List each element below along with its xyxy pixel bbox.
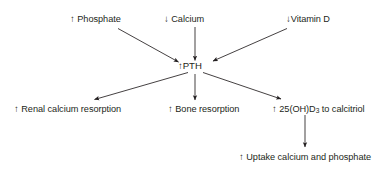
node-bone-resorption-label: Bone resorption [175, 104, 239, 114]
node-uptake-label: Uptake calcium and phosphate [246, 152, 371, 162]
node-phosphate: ↑ Phosphate [70, 14, 121, 24]
node-renal-calcium-resorption-label: Renal calcium resorption [21, 104, 121, 114]
node-uptake-calcium-phosphate: ↑ Uptake calcium and phosphate [239, 152, 371, 162]
node-pth-label: PTH [183, 60, 202, 71]
node-vitamin-d-label: Vitamin D [291, 14, 330, 24]
node-calcitriol-label-post: to calcitriol [319, 104, 364, 114]
node-vitamin-d: ↓Vitamin D [286, 14, 330, 24]
flow-arrows-svg [0, 0, 392, 171]
arrow-pth-to-calcitriol [203, 73, 281, 100]
pth-regulation-diagram: ↑ Phosphate ↓ Calcium ↓Vitamin D ↑PTH ↑ … [0, 0, 392, 171]
node-calcium-label: Calcium [171, 14, 204, 24]
arrow-vitamind-to-pth [213, 29, 287, 62]
node-renal-calcium-resorption: ↑ Renal calcium resorption [14, 104, 121, 114]
arrow-pth-to-renal-calcium-resorption [95, 73, 189, 100]
node-phosphate-label: Phosphate [77, 14, 120, 24]
arrow-phosphate-to-pth [118, 29, 179, 63]
node-pth: ↑PTH [178, 61, 202, 71]
node-bone-resorption: ↑ Bone resorption [168, 104, 239, 114]
node-calcitriol-label-pre: 25(OH)D [279, 104, 315, 114]
node-calcitriol: ↑ 25(OH)D3 to calcitriol [272, 104, 365, 115]
node-calcium: ↓ Calcium [164, 14, 204, 24]
